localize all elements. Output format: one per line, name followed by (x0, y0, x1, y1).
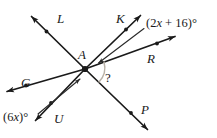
tick-P (129, 111, 133, 115)
unknown-angle-arc (99, 62, 105, 82)
tick-L (45, 30, 49, 34)
ray-R (85, 37, 175, 70)
ray-label-U: U (54, 112, 63, 125)
ray-label-P: P (141, 103, 149, 116)
tick-R (155, 42, 159, 46)
tick-K (124, 28, 128, 32)
ray-label-K: K (116, 12, 125, 25)
angle-label-two-x-plus-16: (2x + 16)° (146, 17, 197, 30)
angle-label-six-x: (6x)° (3, 111, 28, 124)
ray-K (85, 16, 141, 70)
ray-tick-marks (24, 28, 159, 115)
leader-line-six-x (38, 79, 80, 114)
vertex-point-A (82, 66, 88, 72)
ray-label-G: G (21, 76, 30, 89)
vertex-label-A: A (78, 48, 86, 61)
unknown-angle-marker: ? (105, 71, 111, 84)
ray-P (85, 69, 148, 130)
ray-label-R: R (147, 52, 155, 65)
geometry-figure: A L K R P U G (2x + 16)° (6x)° ? (0, 0, 217, 138)
ray-label-L: L (57, 12, 64, 25)
